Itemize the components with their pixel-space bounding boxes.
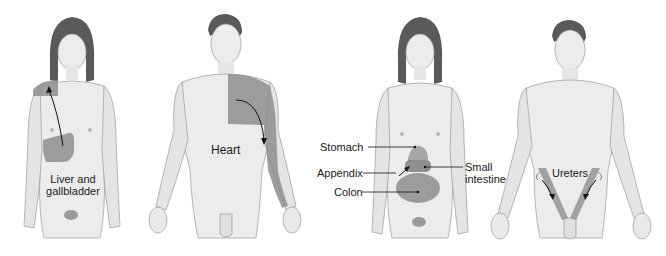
label-appendix: Appendix (317, 167, 363, 179)
figure-heart: Heart (130, 0, 320, 256)
figure-digestive: Stomach Appendix Colon Small intestine (300, 0, 510, 256)
label-stomach: Stomach (320, 141, 363, 153)
label-line-2: gallbladder (38, 185, 108, 197)
male-body-illustration (480, 0, 666, 256)
label-heart: Heart (211, 144, 240, 156)
female-body-illustration (300, 0, 510, 256)
label-line-1: Liver and (38, 173, 108, 185)
label-ureters: Ureters (552, 167, 588, 179)
label-liver-gallbladder: Liver and gallbladder (38, 173, 108, 197)
male-body-illustration (130, 0, 320, 256)
figure-ureters: Ureters (480, 0, 666, 256)
label-colon: Colon (334, 186, 363, 198)
